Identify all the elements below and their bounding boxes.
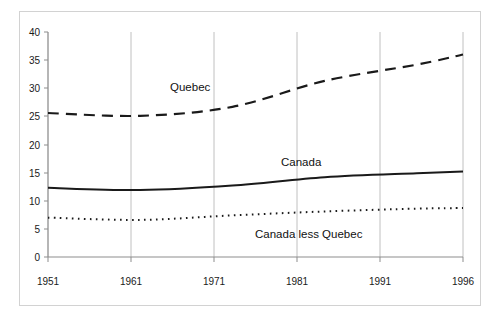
y-tick-labels: 40 35 30 25 20 15 10 5 0: [29, 27, 41, 263]
series-annotations: Quebec Canada Canada less Quebec: [170, 81, 363, 240]
annotation-quebec: Quebec: [170, 81, 211, 93]
annotation-canada: Canada: [281, 156, 322, 168]
y-tick-label: 0: [34, 252, 40, 263]
x-axis: [48, 257, 463, 262]
annotation-canada-less-quebec: Canada less Quebec: [255, 228, 363, 240]
x-tick-labels: 1951 1961 1971 1981 1991 1996: [37, 276, 475, 287]
series-line-quebec: [48, 55, 463, 117]
y-tick-label: 40: [29, 27, 41, 38]
series-line-canada-less-quebec: [48, 208, 463, 220]
x-tick-label: 1981: [286, 276, 309, 287]
x-tick-label: 1971: [203, 276, 226, 287]
x-tick-label: 1951: [37, 276, 60, 287]
y-tick-label: 30: [29, 83, 41, 94]
y-tick-label: 10: [29, 196, 41, 207]
y-tick-label: 5: [34, 224, 40, 235]
line-chart-plot: 40 35 30 25 20 15 10 5 0 1951 1961 1971 …: [0, 0, 494, 316]
y-axis: [44, 32, 48, 257]
chart-figure: 40 35 30 25 20 15 10 5 0 1951 1961 1971 …: [0, 0, 494, 316]
series-group: [48, 55, 463, 220]
gridlines-vertical: [48, 32, 463, 257]
x-tick-label: 1961: [120, 276, 143, 287]
x-tick-label: 1996: [452, 276, 475, 287]
x-tick-label: 1991: [369, 276, 392, 287]
y-tick-label: 15: [29, 168, 41, 179]
y-tick-label: 35: [29, 55, 41, 66]
y-tick-label: 20: [29, 140, 41, 151]
y-tick-label: 25: [29, 111, 41, 122]
series-line-canada: [48, 172, 463, 191]
